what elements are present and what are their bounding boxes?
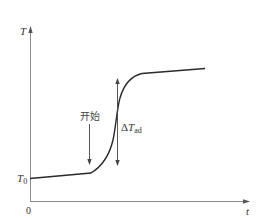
initial-temperature-subscript: 0 [23, 177, 27, 186]
start-annotation: 开始 [80, 110, 100, 162]
delta-tad-label: ΔTad [121, 121, 142, 135]
delta-symbol: Δ [121, 121, 128, 133]
temperature-rise-diagram: T t 0 T0 开始 ΔTad [0, 0, 269, 220]
initial-temperature-label: T0 [17, 172, 27, 186]
origin-label: 0 [26, 205, 31, 216]
start-label: 开始 [80, 110, 100, 122]
y-axis-label: T [20, 25, 27, 37]
delta-t-subscript: ad [134, 126, 142, 135]
x-axis-label: t [246, 205, 250, 217]
